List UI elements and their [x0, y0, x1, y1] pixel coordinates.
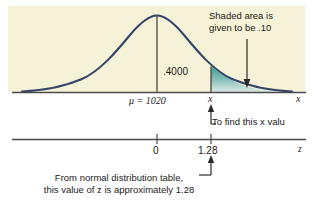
figure-caption-line2: this value of z is approximately 1.28 [44, 184, 195, 195]
shaded-annotation-pointer [244, 39, 251, 88]
shaded-area-annotation-line2: given to be .10 [209, 22, 273, 34]
figure-caption: From normal distribution table, this val… [24, 172, 214, 195]
area-label-left: .4000 [163, 66, 188, 78]
shaded-area-annotation-line1: Shaded area is [209, 10, 273, 22]
z-tick-label-critical: 1.28 [198, 145, 217, 157]
x-axis-label: x [296, 93, 300, 105]
x-marker-label: x [208, 93, 212, 105]
normal-distribution-figure: Shaded area is given to be .10 .4000 μ =… [0, 0, 318, 200]
find-x-value-annotation: To find this x valu [212, 117, 285, 128]
mean-label: μ = 1020 [129, 95, 166, 107]
z-axis-label: z [298, 144, 302, 155]
figure-caption-line1: From normal distribution table, [55, 172, 183, 183]
shaded-area-annotation: Shaded area is given to be .10 [209, 10, 273, 33]
z-tick-label-zero: 0 [153, 145, 159, 157]
mean-label-text: μ = 1020 [129, 95, 166, 106]
